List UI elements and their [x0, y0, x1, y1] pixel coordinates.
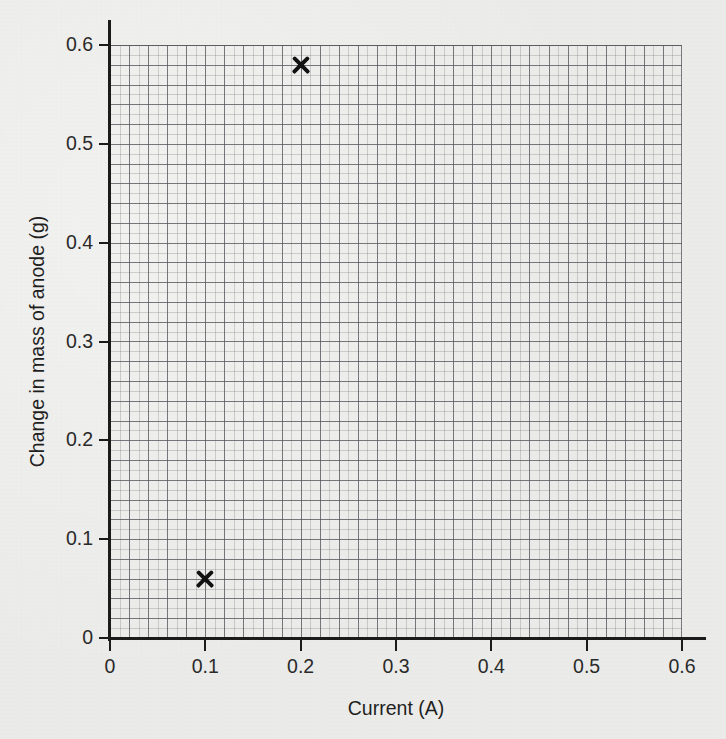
y-tick-mark [99, 341, 111, 343]
y-tick-label-text: 0.4 [66, 233, 93, 253]
y-tick-label-text: 0.3 [66, 332, 93, 352]
y-tick-mark [99, 143, 111, 145]
y-axis-title: Change in mass of anode (g) [24, 45, 50, 638]
y-tick-label-text: 0.6 [66, 35, 93, 55]
y-tick-mark [99, 538, 111, 540]
x-tick-label-text: 0.2 [287, 657, 314, 677]
x-tick-mark [109, 639, 111, 651]
data-point-marker [193, 567, 217, 591]
x-tick-mark [395, 639, 397, 651]
x-tick-label-text: 0.5 [573, 657, 600, 677]
x-tick-mark [300, 639, 302, 651]
x-tick-mark [204, 639, 206, 651]
y-tick-mark [99, 242, 111, 244]
x-tick-mark [586, 639, 588, 651]
y-tick-mark [99, 44, 111, 46]
x-tick-label-text: 0.6 [668, 657, 695, 677]
x-axis-title-text: Current (A) [282, 697, 444, 719]
y-tick-mark [99, 439, 111, 441]
y-tick-label-text: 0 [82, 628, 93, 648]
x-tick-label-text: 0.3 [382, 657, 409, 677]
x-tick-label-text: 0.1 [192, 657, 219, 677]
x-axis-line [108, 637, 706, 640]
x-tick-label-text: 0.4 [478, 657, 505, 677]
y-tick-label-text: 0.1 [66, 529, 93, 549]
y-tick-label-text: 0.5 [66, 134, 93, 154]
scatter-chart: 00.10.20.30.40.50.6 00.10.20.30.40.50.6 … [0, 0, 726, 739]
y-axis-line [108, 20, 111, 641]
x-tick-mark [490, 639, 492, 651]
data-point-marker [289, 53, 313, 77]
y-tick-label-text: 0.2 [66, 430, 93, 450]
plot-area [110, 45, 682, 638]
grid-border [110, 45, 682, 638]
x-tick-label-text: 0 [105, 657, 116, 677]
x-tick-mark [681, 639, 683, 651]
x-axis-title: Current (A) [0, 697, 726, 720]
